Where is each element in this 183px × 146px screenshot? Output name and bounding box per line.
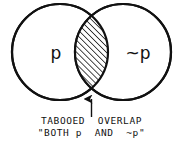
circle-label-not-p: ~p (118, 45, 158, 62)
caption: TABOOED OVERLAP "BOTH p AND ~p" (0, 115, 183, 139)
circle-label-p: p (42, 45, 70, 62)
caption-line-2: "BOTH p AND ~p" (0, 127, 183, 139)
venn-diagram-figure: p ~p TABOOED OVERLAP "BOTH p AND ~p" (0, 0, 183, 146)
caption-line-1: TABOOED OVERLAP (0, 115, 183, 127)
